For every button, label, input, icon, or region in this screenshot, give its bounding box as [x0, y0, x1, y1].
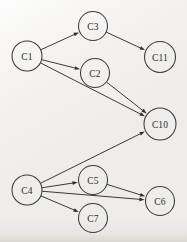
node-c6[interactable]: C6 — [146, 187, 175, 216]
node-c3[interactable]: C3 — [79, 12, 108, 41]
arrowhead-icon — [139, 132, 145, 136]
edge-c2-to-c10 — [107, 82, 147, 113]
node-label: C5 — [87, 176, 98, 186]
nodes-layer: C1C3C11C2C10C4C5C7C6 — [12, 12, 176, 233]
arrowhead-icon — [140, 46, 146, 50]
node-label: C1 — [21, 52, 32, 62]
edge-c1-to-c2 — [42, 60, 80, 70]
node-c10[interactable]: C10 — [144, 108, 176, 140]
arrowhead-icon — [74, 66, 80, 70]
node-label: C10 — [152, 120, 168, 130]
edge-c1-to-c3 — [41, 32, 79, 49]
edge-c4-to-c5 — [42, 181, 77, 187]
edge-c4-to-c6 — [42, 191, 144, 201]
node-c5[interactable]: C5 — [79, 166, 108, 195]
node-c4[interactable]: C4 — [12, 175, 42, 205]
arrowhead-icon — [73, 208, 79, 212]
arrowhead-icon — [139, 197, 144, 201]
arrowhead-icon — [73, 32, 79, 36]
node-c11[interactable]: C11 — [145, 42, 176, 73]
node-label: C2 — [89, 69, 100, 79]
edge-c3-to-c11 — [107, 32, 145, 50]
node-label: C11 — [152, 53, 168, 63]
node-c1[interactable]: C1 — [12, 41, 42, 71]
edge-c5-to-c6 — [107, 184, 145, 196]
node-label: C7 — [87, 214, 98, 224]
edge-c4-to-c7 — [41, 196, 78, 212]
arrowhead-icon — [139, 112, 144, 116]
node-label: C4 — [21, 186, 32, 196]
node-c2[interactable]: C2 — [81, 59, 110, 88]
diagram-canvas: C1C3C11C2C10C4C5C7C6 — [0, 0, 187, 242]
node-label: C6 — [154, 197, 165, 207]
node-label: C3 — [87, 22, 98, 32]
directed-graph: C1C3C11C2C10C4C5C7C6 — [0, 0, 187, 242]
node-c7[interactable]: C7 — [79, 204, 108, 233]
arrowhead-icon — [72, 181, 77, 185]
arrowhead-icon — [140, 193, 146, 197]
